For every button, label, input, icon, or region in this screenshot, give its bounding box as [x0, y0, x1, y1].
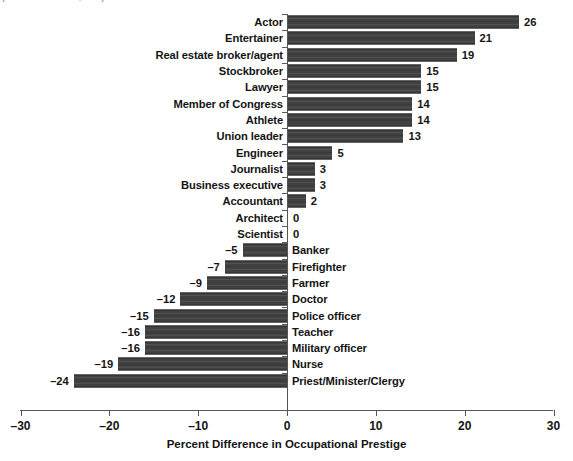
bar-value-label: 15 [426, 81, 438, 93]
x-axis-tick [21, 410, 22, 416]
bar [288, 146, 332, 159]
bar [288, 179, 315, 192]
bar [207, 276, 287, 289]
category-label: Engineer [236, 147, 283, 159]
bar [145, 325, 287, 338]
category-label: Athlete [246, 114, 283, 126]
x-axis-tick [109, 410, 110, 416]
category-label: Nurse [292, 358, 323, 370]
category-label: Doctor [292, 293, 327, 305]
x-axis-tick-label: 30 [547, 419, 560, 433]
category-label: Firefighter [292, 261, 346, 273]
bar-value-label: 21 [480, 32, 492, 44]
category-label: Priest/Minister/Clergy [292, 375, 405, 387]
bar [180, 293, 287, 306]
category-label: Scientist [237, 228, 283, 240]
bar-value-label: –15 [130, 310, 149, 322]
category-label: Teacher [292, 326, 333, 338]
bar-value-label: 0 [293, 212, 299, 224]
bar [288, 130, 403, 143]
x-axis-tick-label: –10 [188, 419, 208, 433]
category-label: Entertainer [225, 32, 283, 44]
bar-value-label: –16 [121, 326, 140, 338]
bar-value-label: –12 [157, 293, 176, 305]
bar [145, 342, 287, 355]
bar-value-label: –19 [95, 358, 114, 370]
bar-value-label: 2 [311, 195, 317, 207]
category-label: Business executive [181, 179, 283, 191]
bar-value-label: 14 [417, 114, 429, 126]
bar-value-label: –24 [50, 375, 69, 387]
x-axis-tick-label: –30 [10, 419, 30, 433]
bar [118, 358, 287, 371]
x-axis-tick [287, 410, 288, 416]
bar [154, 309, 287, 322]
bar-value-label: –9 [190, 277, 202, 289]
x-axis-tick-label: 20 [458, 419, 471, 433]
category-label: Actor [254, 16, 283, 28]
bar-chart: Actor26Entertainer21Real estate broker/a… [0, 0, 573, 461]
bar-value-label: –16 [121, 342, 140, 354]
bar-value-label: 0 [293, 228, 299, 240]
bar-value-label: 15 [426, 65, 438, 77]
x-axis-tick [465, 410, 466, 416]
category-label: Farmer [292, 277, 329, 289]
bar-value-label: –7 [207, 261, 219, 273]
category-label: Union leader [216, 130, 283, 142]
bar [288, 65, 421, 78]
category-label: Banker [292, 244, 329, 256]
x-axis-title: Percent Difference in Occupational Prest… [0, 438, 573, 450]
category-label: Member of Congress [174, 98, 283, 110]
category-label: Journalist [231, 163, 283, 175]
x-axis-tick-label: 0 [284, 419, 291, 433]
category-label: Architect [235, 212, 283, 224]
x-axis-tick [198, 410, 199, 416]
bar [225, 260, 287, 273]
bar [288, 16, 519, 29]
bar-value-label: 5 [337, 147, 343, 159]
x-axis-tick [376, 410, 377, 416]
x-axis-tick [554, 410, 555, 416]
bar [288, 113, 412, 126]
bar-value-label: 19 [462, 49, 474, 61]
bar [243, 244, 287, 257]
category-label: Real estate broker/agent [155, 49, 283, 61]
bar [74, 374, 287, 387]
bar [288, 81, 421, 94]
bar-value-label: 3 [320, 163, 326, 175]
x-axis-tick-label: 10 [369, 419, 382, 433]
bar-value-label: 3 [320, 179, 326, 191]
bar-value-label: 13 [408, 130, 420, 142]
bar [288, 195, 306, 208]
category-label: Accountant [222, 195, 283, 207]
bar [288, 97, 412, 110]
category-label: Military officer [292, 342, 367, 354]
bar-value-label: –5 [225, 244, 237, 256]
bar-value-label: 26 [524, 16, 536, 28]
bar-value-label: 14 [417, 98, 429, 110]
category-label: Police officer [292, 310, 361, 322]
category-label: Stockbroker [219, 65, 283, 77]
category-label: Lawyer [245, 81, 283, 93]
bar [288, 48, 457, 61]
x-axis-tick-label: –20 [99, 419, 119, 433]
y-axis-line [287, 14, 288, 410]
bar [288, 32, 475, 45]
bar [288, 162, 315, 175]
